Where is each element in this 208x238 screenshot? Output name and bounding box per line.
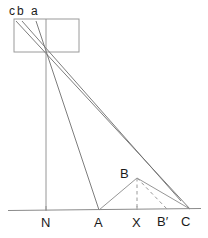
drop-line-bbprime (137, 178, 167, 209)
point-label-n: N (41, 216, 50, 229)
ray-label-a: a (31, 5, 38, 17)
point-label-c: C (181, 215, 190, 228)
ray-a-line (36, 21, 99, 210)
geometry-figure: c b a B N A X B′ C (0, 0, 208, 238)
point-label-a: A (94, 216, 103, 229)
baseline (8, 209, 201, 211)
point-label-b: B (120, 167, 129, 180)
ray-c-line (16, 21, 190, 209)
ray-label-c: c (9, 5, 15, 17)
point-label-x: X (132, 216, 141, 229)
geometry-canvas (0, 0, 208, 238)
segment-bc (137, 178, 190, 209)
ray-label-b: b (17, 5, 24, 17)
segment-ab (99, 178, 137, 210)
point-label-b-prime: B′ (157, 215, 168, 228)
rectangle-frame (14, 19, 79, 52)
